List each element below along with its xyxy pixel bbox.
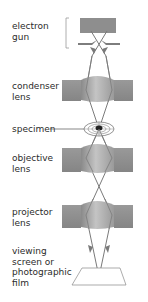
condenser-lens-icon [62,76,133,102]
viewing-screen-icon [72,268,126,285]
objective-lens-icon [62,144,133,173]
tem-diagram [0,0,148,302]
bracket-icon [66,18,69,48]
specimen-icon [50,122,114,136]
electron-gun-icon [78,18,120,45]
projector-lens-icon [62,201,133,229]
